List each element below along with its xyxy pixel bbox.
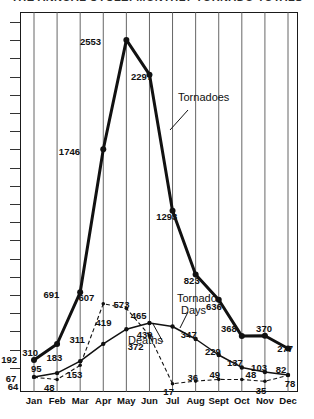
value-label: 137 <box>227 358 243 368</box>
chart-title-clipped: THE ANNUAL CYCLE: MONTHLY TORNADO TOTALS <box>0 0 314 3</box>
annotation-days: Days <box>181 304 206 316</box>
value-label: 368 <box>221 324 237 334</box>
chart-figure: THE ANNUAL CYCLE: MONTHLY TORNADO TOTALS… <box>0 0 314 419</box>
value-label: 419 <box>96 318 112 328</box>
value-label: 48 <box>44 383 55 393</box>
value-label: 153 <box>66 370 82 380</box>
y-axis-tick <box>10 131 20 132</box>
y-axis-tick <box>10 240 20 241</box>
series-tornadoes-line <box>31 37 291 363</box>
value-label: 277 <box>277 344 293 354</box>
value-label: 78 <box>285 379 296 389</box>
y-axis-tick <box>10 168 20 169</box>
y-axis-tick <box>10 40 20 41</box>
value-label: 465 <box>131 311 147 321</box>
y-axis-tick <box>10 113 20 114</box>
value-label: 823 <box>184 276 200 286</box>
value-label: 82 <box>276 365 287 375</box>
y-axis-tick <box>10 186 20 187</box>
value-label: 2553 <box>80 37 101 47</box>
value-label: 370 <box>256 324 272 334</box>
y-axis-tick <box>10 368 20 369</box>
value-label: 691 <box>43 290 59 300</box>
y-axis-tick <box>10 331 20 332</box>
value-label: 310 <box>22 348 38 358</box>
y-axis-tick <box>10 295 20 296</box>
y-axis-tick <box>10 95 20 96</box>
y-axis-tick <box>10 58 20 59</box>
value-label: 95 <box>31 364 42 374</box>
value-label: 183 <box>46 353 62 363</box>
value-label: 1293 <box>156 212 177 222</box>
value-label: 49 <box>210 370 221 380</box>
value-label: 311 <box>69 335 84 345</box>
y-axis-tick <box>10 149 20 150</box>
y-axis-tick <box>10 277 20 278</box>
value-label: 347 <box>181 330 197 340</box>
y-axis-tick <box>10 222 20 223</box>
annotation-tornado: Tornado <box>177 292 217 304</box>
y-axis-tick <box>10 259 20 260</box>
value-label: 192 <box>1 355 17 365</box>
annotation-tornadoes: Tornadoes <box>178 91 229 103</box>
y-axis-tick <box>10 22 20 23</box>
y-axis-tick <box>10 204 20 205</box>
value-label: 2297 <box>131 72 152 82</box>
annotation-deaths: Deaths <box>128 334 163 346</box>
x-axis-label-dec: Dec <box>273 396 303 406</box>
y-axis-tick <box>10 77 20 78</box>
y-axis-tick <box>10 313 20 314</box>
value-label: 573 <box>114 300 130 310</box>
value-label: 229 <box>205 347 221 357</box>
value-label: 48 <box>246 370 257 380</box>
value-label: 607 <box>78 293 94 303</box>
value-label: 64 <box>8 382 19 392</box>
value-label: 1746 <box>59 147 80 157</box>
value-label: 36 <box>187 373 198 383</box>
y-axis-tick <box>10 350 20 351</box>
